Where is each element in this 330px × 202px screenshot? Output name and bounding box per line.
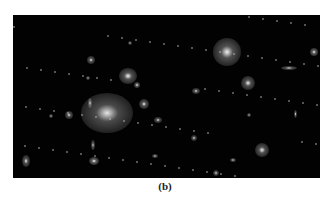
star-speck (110, 79, 112, 81)
galaxy (213, 170, 219, 176)
star-speck (193, 130, 195, 132)
star-speck (151, 124, 153, 126)
star-speck (218, 90, 220, 92)
star-speck (26, 67, 28, 69)
star-speck (276, 20, 278, 22)
star-speck (122, 159, 124, 161)
star-speck (179, 128, 181, 130)
galaxy (89, 157, 99, 165)
star-speck (177, 45, 179, 47)
galaxy (88, 98, 92, 108)
star-speck (165, 126, 167, 128)
figure-caption: (b) (0, 180, 330, 192)
star-speck (54, 71, 56, 73)
galaxy (294, 110, 297, 118)
star-speck (121, 37, 123, 39)
star-speck (246, 94, 248, 96)
star-speck (24, 145, 26, 147)
star-speck (149, 41, 151, 43)
star-speck (107, 35, 109, 37)
star-speck (80, 153, 82, 155)
galaxy (154, 117, 162, 123)
star-speck (38, 147, 40, 149)
star-speck (207, 132, 209, 134)
galaxy (49, 114, 53, 118)
star-speck (232, 92, 234, 94)
star-speck (206, 171, 208, 173)
star-speck (288, 100, 290, 102)
galaxy (281, 66, 297, 70)
galaxy (255, 143, 269, 157)
star-speck (303, 63, 305, 65)
star-speck (289, 61, 291, 63)
star-speck (82, 75, 84, 77)
star-speck (191, 47, 193, 49)
galaxy (134, 82, 140, 88)
galaxy (87, 56, 95, 64)
galaxy (241, 76, 255, 90)
star-speck (135, 39, 137, 41)
galaxy (91, 140, 95, 150)
star-speck (262, 18, 264, 20)
star-speck (316, 104, 318, 106)
galaxy (192, 88, 200, 94)
star-speck (40, 69, 42, 71)
galaxy-cluster-image (13, 15, 320, 178)
star-speck (290, 22, 292, 24)
star-speck (260, 96, 262, 98)
star-speck (247, 55, 249, 57)
star-speck (304, 24, 306, 26)
galaxy (22, 155, 30, 167)
galaxy (152, 154, 158, 158)
star-speck (94, 155, 96, 157)
star-speck (205, 49, 207, 51)
star-speck (96, 77, 98, 79)
star-speck (301, 141, 303, 143)
star-speck (108, 157, 110, 159)
star-speck (53, 110, 55, 112)
star-speck (192, 169, 194, 171)
galaxy (230, 158, 236, 162)
star-speck (95, 116, 97, 118)
star-speck (234, 175, 236, 177)
star-speck (39, 108, 41, 110)
star-speck (315, 143, 317, 145)
star-speck (164, 165, 166, 167)
galaxy (139, 99, 149, 109)
star-speck (204, 88, 206, 90)
star-speck (52, 149, 54, 151)
star-speck (274, 98, 276, 100)
star-speck (220, 173, 222, 175)
galaxy (191, 135, 197, 141)
galaxy (213, 38, 241, 66)
star-speck (13, 26, 15, 28)
star-speck (25, 106, 27, 108)
star-speck (233, 53, 235, 55)
galaxy (86, 76, 90, 80)
star-speck (150, 163, 152, 165)
star-speck (302, 102, 304, 104)
star-speck (137, 122, 139, 124)
star-speck (67, 112, 69, 114)
star-speck (261, 57, 263, 59)
star-speck (123, 120, 125, 122)
star-speck (317, 65, 319, 67)
star-speck (178, 167, 180, 169)
star-speck (136, 161, 138, 163)
star-speck (81, 114, 83, 116)
star-speck (275, 59, 277, 61)
star-speck (163, 43, 165, 45)
star-speck (248, 16, 250, 18)
galaxy (247, 113, 251, 117)
star-speck (109, 118, 111, 120)
galaxy (128, 41, 132, 45)
galaxy (310, 48, 318, 56)
star-speck (68, 73, 70, 75)
star-speck (219, 51, 221, 53)
star-speck (66, 151, 68, 153)
